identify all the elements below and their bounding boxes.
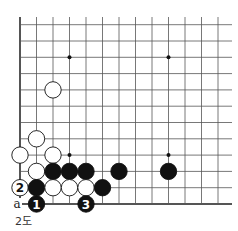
white-stone (12, 147, 28, 163)
go-board: a213 (0, 0, 238, 231)
black-stone (28, 180, 44, 196)
move-number-label: 1 (32, 198, 40, 212)
white-stone (28, 131, 44, 147)
black-stone (45, 163, 61, 179)
point-marker-label: a (13, 197, 20, 211)
diagram-caption: 2도 (15, 212, 32, 228)
star-point (68, 153, 72, 157)
white-stone (45, 180, 61, 196)
white-stone (45, 82, 61, 98)
move-number-label: 3 (82, 198, 90, 212)
white-stone (61, 180, 77, 196)
white-stone (45, 147, 61, 163)
black-stone (160, 163, 176, 179)
black-stone (61, 163, 77, 179)
black-stone (94, 180, 110, 196)
white-stone (78, 180, 94, 196)
star-point (167, 153, 171, 157)
black-stone (111, 163, 127, 179)
black-stone (78, 163, 94, 179)
white-stone (28, 163, 44, 179)
star-point (167, 55, 171, 59)
star-point (68, 55, 72, 59)
move-number-label: 2 (16, 181, 24, 195)
